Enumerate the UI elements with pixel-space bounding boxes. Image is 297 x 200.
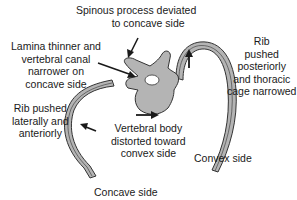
label-line: Lamina thinner and: [11, 40, 101, 53]
label-line: distorted toward: [111, 135, 186, 148]
label-line: to concave side: [76, 17, 196, 30]
label-vertebral-body: Vertebral body distorted toward convex s…: [111, 122, 186, 160]
label-line: anteriorly: [12, 127, 69, 140]
label-line: Spinous process deviated: [76, 4, 196, 17]
label-line: convex side: [111, 147, 186, 160]
label-line: posteriorly: [227, 60, 296, 73]
spinous-process-arrow: [127, 38, 138, 58]
label-line: Vertebral body: [111, 122, 186, 135]
rib-lateral-arrow: [80, 123, 96, 131]
scoliosis-diagram: [0, 0, 297, 200]
label-line: cage narrowed: [227, 85, 296, 98]
label-rib-posterior: Rib pushed posteriorly and thoracic cage…: [227, 35, 296, 98]
label-line: and thoracic: [227, 73, 296, 86]
label-convex-side: Convex side: [194, 152, 252, 165]
label-line: laterally and: [12, 115, 69, 128]
label-rib-lateral: Rib pushed laterally and anteriorly: [12, 102, 69, 140]
label-line: narrower on: [11, 65, 101, 78]
vertebra: [124, 51, 178, 114]
label-lamina: Lamina thinner and vertebral canal narro…: [11, 40, 101, 90]
label-spinous-process: Spinous process deviated to concave side: [76, 4, 196, 29]
label-line: concave side: [11, 78, 101, 91]
label-line: pushed: [227, 48, 296, 61]
label-concave-side: Concave side: [94, 186, 158, 199]
vertebral-canal: [145, 75, 159, 85]
label-line: Rib pushed: [12, 102, 69, 115]
label-line: vertebral canal: [11, 53, 101, 66]
label-line: Rib: [227, 35, 296, 48]
